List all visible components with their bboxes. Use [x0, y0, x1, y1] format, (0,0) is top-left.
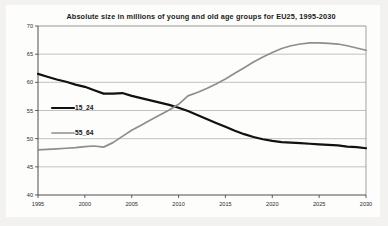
chart-plot-wrapper: Absolute size in millions of young and o…	[0, 0, 388, 226]
y-axis-tick-label: 40	[27, 192, 33, 198]
x-axis-tick-label: 2005	[125, 201, 137, 207]
y-axis-tick-label: 55	[27, 108, 33, 114]
y-axis-labels-group: 40455055606570	[27, 23, 33, 198]
line-chart-svg: 40455055606570 1995200020052010201520202…	[0, 0, 388, 226]
x-axis-tick-label: 2020	[266, 201, 278, 207]
y-axis-tick-label: 70	[27, 23, 33, 29]
x-axis-tick-label: 2010	[172, 201, 184, 207]
y-axis-tick-label: 60	[27, 79, 33, 85]
tick-marks-group	[35, 26, 366, 198]
y-axis-tick-label: 50	[27, 136, 33, 142]
chart-legend: 15_2455_64	[52, 104, 94, 136]
x-axis-tick-label: 2015	[219, 201, 231, 207]
y-axis-tick-label: 45	[27, 164, 33, 170]
chart-figure: Absolute size in millions of young and o…	[0, 0, 388, 226]
legend-label-55_64: 55_64	[75, 129, 94, 136]
x-axis-tick-label: 2000	[79, 201, 91, 207]
x-axis-tick-label: 2030	[360, 201, 372, 207]
x-axis-tick-label: 1995	[32, 201, 44, 207]
y-axis-tick-label: 65	[27, 51, 33, 57]
legend-label-15_24: 15_24	[75, 104, 94, 111]
x-axis-labels-group: 19952000200520102015202020252030	[32, 201, 372, 207]
x-axis-tick-label: 2025	[313, 201, 325, 207]
